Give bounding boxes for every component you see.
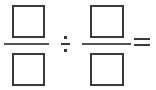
equals-bar-bottom <box>134 44 150 46</box>
second-fraction-denominator-box[interactable] <box>90 53 124 86</box>
first-fraction-denominator-box[interactable] <box>12 53 45 86</box>
equals-icon: = <box>134 38 150 48</box>
division-icon: ÷ <box>61 36 70 52</box>
second-fraction-bar <box>82 43 131 45</box>
second-fraction-numerator-box[interactable] <box>90 5 124 38</box>
first-fraction-numerator-box[interactable] <box>12 5 45 38</box>
first-fraction-bar <box>4 43 49 45</box>
equals-bar-top <box>134 38 150 40</box>
math-expression-canvas: ÷ = <box>0 0 156 90</box>
division-bar <box>61 43 70 45</box>
division-dot-top <box>64 36 67 39</box>
division-dot-bottom <box>64 49 67 52</box>
